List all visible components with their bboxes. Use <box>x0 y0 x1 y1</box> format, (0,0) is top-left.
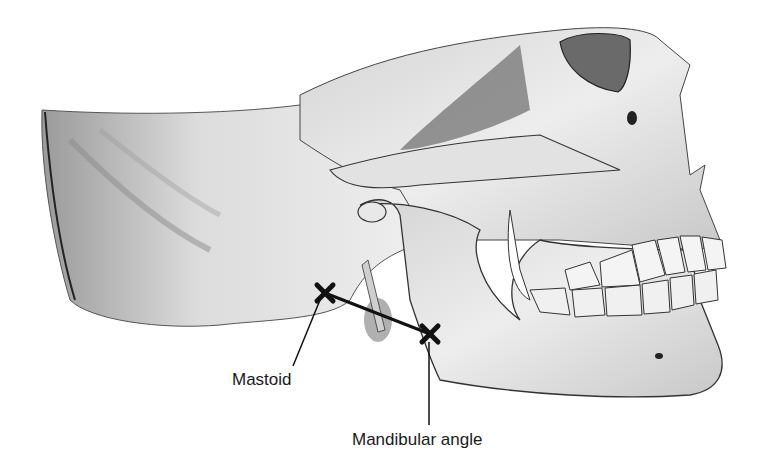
skull-illustration <box>0 0 770 466</box>
mastoid-label: Mastoid <box>232 370 292 390</box>
mandibular-angle-label: Mandibular angle <box>352 430 482 450</box>
